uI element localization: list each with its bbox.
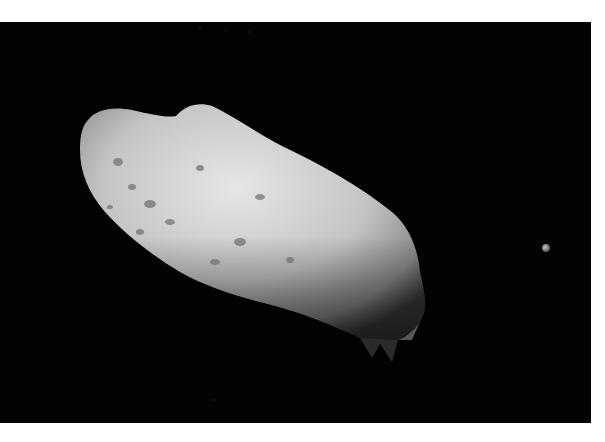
moon	[542, 244, 550, 252]
asteroid	[80, 104, 425, 362]
asteroid-photo: Grayscale photograph of an elongated, cr…	[0, 22, 591, 423]
asteroid-scene	[0, 22, 591, 423]
